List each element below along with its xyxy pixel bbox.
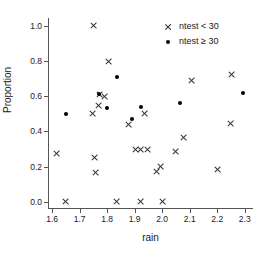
x-axis-title: rain	[48, 232, 253, 243]
legend: ntest < 30ntest ≥ 30	[163, 19, 219, 49]
data-point-dot[interactable]	[130, 117, 134, 121]
data-point-dot[interactable]	[64, 112, 68, 116]
data-point-cross[interactable]	[137, 198, 144, 205]
data-point-cross[interactable]	[101, 93, 108, 100]
x-tick-mark	[80, 209, 81, 213]
x-tick-mark	[162, 209, 163, 213]
x-tick-label: 1.9	[129, 215, 141, 224]
y-tick-label: 0.6	[30, 92, 42, 101]
x-tick-mark	[245, 209, 246, 213]
data-point-cross[interactable]	[144, 146, 151, 153]
data-point-cross[interactable]	[180, 134, 187, 141]
y-axis-title: Proportion	[2, 67, 13, 113]
data-point-cross[interactable]	[228, 71, 235, 78]
y-tick-label: 1.0	[30, 22, 42, 31]
y-tick-label: 0.2	[30, 162, 42, 171]
x-tick-label: 1.6	[46, 215, 58, 224]
data-point-cross[interactable]	[172, 148, 179, 155]
x-tick-mark	[217, 209, 218, 213]
x-tick-label: 1.7	[74, 215, 86, 224]
data-point-dot[interactable]	[97, 92, 101, 96]
data-point-cross[interactable]	[157, 163, 164, 170]
cross-marker-icon	[163, 22, 173, 32]
y-tick-mark	[44, 26, 48, 27]
legend-item[interactable]: ntest < 30	[163, 19, 219, 34]
data-point-cross[interactable]	[188, 77, 195, 84]
data-point-cross[interactable]	[105, 58, 112, 65]
data-point-cross[interactable]	[91, 154, 98, 161]
x-tick-mark	[107, 209, 108, 213]
data-point-cross[interactable]	[90, 22, 97, 29]
legend-item-label: ntest ≥ 30	[179, 37, 218, 46]
x-tick-mark	[190, 209, 191, 213]
data-point-cross[interactable]	[92, 169, 99, 176]
dot-marker-icon	[163, 37, 173, 47]
data-point-cross[interactable]	[95, 102, 102, 109]
x-tick-mark	[52, 209, 53, 213]
y-tick-label: 0.0	[30, 198, 42, 207]
data-point-cross[interactable]	[89, 110, 96, 117]
y-tick-label: 0.8	[30, 57, 42, 66]
data-point-dot[interactable]	[105, 106, 109, 110]
data-point-cross[interactable]	[125, 121, 132, 128]
x-tick-label: 2.3	[239, 215, 251, 224]
x-tick-label: 2.1	[184, 215, 196, 224]
data-point-cross[interactable]	[62, 198, 69, 205]
y-tick-mark	[44, 167, 48, 168]
data-point-cross[interactable]	[159, 198, 166, 205]
y-tick-mark	[44, 96, 48, 97]
data-point-cross[interactable]	[227, 120, 234, 127]
data-point-dot[interactable]	[115, 75, 119, 79]
y-tick-label: 0.4	[30, 127, 42, 136]
data-point-dot[interactable]	[241, 91, 245, 95]
legend-item[interactable]: ntest ≥ 30	[163, 34, 219, 49]
data-point-cross[interactable]	[141, 110, 148, 117]
data-point-cross[interactable]	[113, 198, 120, 205]
x-tick-label: 1.8	[101, 215, 113, 224]
y-axis-line	[48, 18, 49, 208]
data-point-cross[interactable]	[53, 150, 60, 157]
data-point-dot[interactable]	[139, 105, 143, 109]
y-tick-mark	[44, 61, 48, 62]
scatter-plot-figure: 0.00.20.40.60.81.0 1.61.71.81.92.02.12.2…	[0, 0, 260, 259]
x-tick-label: 2.2	[211, 215, 223, 224]
data-point-cross[interactable]	[137, 146, 144, 153]
y-tick-mark	[44, 202, 48, 203]
legend-item-label: ntest < 30	[179, 22, 219, 31]
plot-area: 0.00.20.40.60.81.0 1.61.71.81.92.02.12.2…	[48, 18, 253, 208]
data-point-cross[interactable]	[214, 166, 221, 173]
y-tick-mark	[44, 131, 48, 132]
x-tick-label: 2.0	[156, 215, 168, 224]
x-tick-mark	[135, 209, 136, 213]
data-point-dot[interactable]	[178, 101, 182, 105]
